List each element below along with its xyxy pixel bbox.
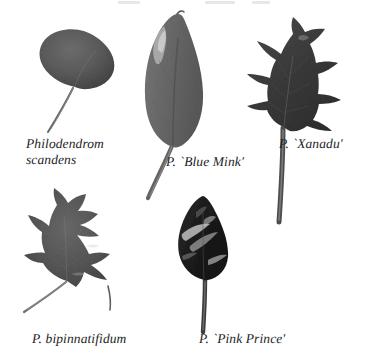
caption-bipinnatifidum: P. bipinnatifidum [32, 331, 126, 347]
caption-xanadu: P. `Xanadu' [279, 136, 343, 152]
cropped-text-remnant [252, 1, 270, 4]
leaf-stem [48, 88, 73, 132]
leaf-figure-pink-prince [160, 194, 260, 334]
caption-pink-prince: P. `Pink Prince' [199, 331, 285, 347]
leaf-figure-xanadu [243, 14, 359, 226]
leaf-plate: Philodendrom scandens P. `Blue Mink' P. … [0, 0, 372, 354]
leaf-figure-blue-mink [132, 8, 220, 204]
cropped-text-remnant [118, 1, 140, 4]
leaf-figure-bipinnatifidum [12, 186, 152, 326]
cropped-text-remnant [205, 1, 235, 4]
leaf-blade [247, 17, 341, 131]
leaf-blade [145, 14, 203, 147]
caption-blue-mink: P. `Blue Mink' [166, 154, 244, 170]
caption-scandens: Philodendrom scandens [26, 136, 104, 169]
leaf-figure-scandens [26, 24, 136, 139]
